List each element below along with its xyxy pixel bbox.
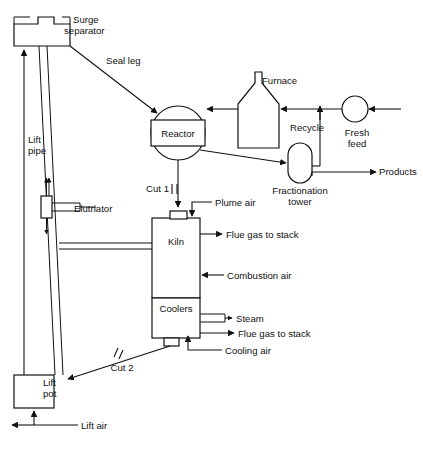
cut-2-label: Cut 2 (111, 362, 134, 373)
cut-1-label: Cut 1 (146, 183, 169, 194)
lift-pot-label-line1: Lift (43, 377, 56, 388)
flue-gas-kiln-label: Flue gas to stack (226, 229, 299, 240)
products-stream: Products (312, 166, 417, 177)
cooling-air-label: Cooling air (225, 345, 272, 356)
steam-stream: Steam (200, 313, 264, 324)
furnace: Furnace (238, 72, 297, 148)
surge-separator: Surge separator (14, 14, 105, 46)
combustion-air-label: Combustion air (227, 270, 292, 281)
fresh-feed-label-line2: feed (348, 138, 367, 149)
lift-air-label: Lift air (81, 420, 108, 431)
pfd-canvas: Surge separator Seal leg Lift pipe Elutr… (0, 0, 423, 451)
elutriator: Elutriator (41, 178, 113, 234)
kiln: Kiln (152, 211, 200, 298)
flue-gas-coolers-label: Flue gas to stack (238, 328, 311, 339)
reactor: Reactor (151, 106, 205, 160)
process-flow-diagram: Surge separator Seal leg Lift pipe Elutr… (0, 0, 423, 451)
plume-air-label: Plume air (215, 197, 256, 208)
elutriator-to-kiln-line (59, 243, 152, 249)
furnace-label: Furnace (262, 75, 297, 86)
cut-1-stream: Cut 1 (146, 160, 178, 207)
elutriator-label: Elutriator (74, 203, 113, 214)
lift-air-stream: Lift air (12, 411, 108, 431)
lift-pot-label-line2: pot (43, 388, 57, 399)
lift-pot: Lift pot (14, 375, 57, 408)
fractionation-tower-label-line1: Fractionation (272, 185, 327, 196)
kiln-label: Kiln (168, 236, 184, 247)
plume-air-stream: Plume air (192, 197, 256, 216)
flue-gas-kiln-stream: Flue gas to stack (200, 229, 299, 240)
cut-2-stream: Cut 2 (68, 346, 170, 379)
recycle-label: Recycle (290, 122, 324, 133)
coolers-label: Coolers (159, 303, 192, 314)
seal-leg-label: Seal leg (106, 55, 141, 66)
steam-label: Steam (236, 313, 264, 324)
flue-gas-coolers-stream: Flue gas to stack (200, 328, 311, 339)
products-label: Products (379, 166, 417, 177)
coolers: Coolers (152, 298, 200, 338)
surge-separator-label-line2: separator (64, 25, 105, 36)
reactor-to-tower-line (200, 150, 286, 163)
fractionation-tower-label-line2: tower (288, 196, 312, 207)
fresh-feed-pump: Fresh feed (342, 96, 401, 149)
seal-leg-stream: Seal leg (70, 46, 157, 113)
fresh-feed-label-line1: Fresh (345, 127, 370, 138)
surge-separator-label-line1: Surge (73, 14, 99, 25)
combustion-air-stream: Combustion air (202, 270, 292, 281)
reactor-label: Reactor (161, 128, 195, 139)
coolers-bottom-nozzle (164, 338, 179, 346)
fractionation-tower: Fractionation tower (272, 143, 327, 207)
lift-pipe-label-line1: Lift (28, 134, 41, 145)
cooling-air-stream: Cooling air (188, 336, 272, 356)
